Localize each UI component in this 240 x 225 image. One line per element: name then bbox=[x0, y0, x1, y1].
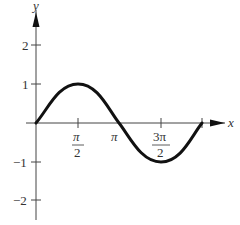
y-tick-label: −1 bbox=[13, 155, 27, 170]
x-tick-label: π bbox=[111, 129, 118, 144]
y-axis-arrow-icon bbox=[33, 12, 40, 27]
x-tick-label-denominator: 2 bbox=[157, 145, 164, 160]
x-tick-label-numerator: π bbox=[73, 129, 80, 144]
x-tick-label-denominator: 2 bbox=[74, 145, 81, 160]
x-axis-label: x bbox=[227, 115, 234, 130]
x-axis-arrow-icon bbox=[210, 120, 225, 127]
y-axis-label: y bbox=[31, 0, 39, 13]
y-tick-label: 1 bbox=[22, 77, 29, 92]
x-ticks: π 2 π 3π 2 bbox=[72, 118, 202, 160]
x-tick-label-numerator: 3π bbox=[153, 129, 167, 144]
y-tick-label: 2 bbox=[22, 38, 29, 53]
sine-chart: y x 2 1 −1 −2 π 2 π 3π 2 bbox=[0, 0, 240, 225]
y-tick-label: −2 bbox=[13, 193, 27, 208]
